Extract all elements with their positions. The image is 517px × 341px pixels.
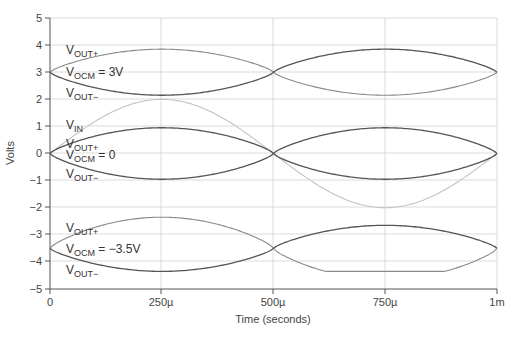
x-axis-title: Time (seconds) bbox=[235, 313, 310, 325]
y-tick: 2 bbox=[36, 93, 42, 105]
y-tick: −3 bbox=[29, 228, 42, 240]
y-tick: 0 bbox=[36, 147, 42, 159]
label-vout-minus-0: VOUT− bbox=[66, 167, 98, 183]
curves bbox=[50, 49, 497, 271]
annotations: VOUT+ VOCM = 3V VOUT− VIN VOUT+ VOCM = 0… bbox=[66, 43, 140, 279]
y-tick: −2 bbox=[29, 201, 42, 213]
y-tick: −1 bbox=[29, 174, 42, 186]
x-tick-labels: 0 250µ 500µ 750µ 1m bbox=[47, 296, 505, 308]
y-tick: 3 bbox=[36, 66, 42, 78]
chart: 5 4 3 2 1 0 −1 −2 −3 −4 −5 0 250µ 500µ 7… bbox=[0, 0, 517, 341]
x-tick: 1m bbox=[489, 296, 504, 308]
curve-vout-vocm-0 bbox=[50, 128, 497, 180]
x-tick: 0 bbox=[47, 296, 53, 308]
label-vout-plus-3v: VOUT+ bbox=[66, 43, 98, 59]
label-vout-minus-m35: VOUT− bbox=[66, 263, 98, 279]
label-vout-minus-3v: VOUT− bbox=[66, 86, 98, 102]
y-axis-title: Volts bbox=[4, 141, 16, 165]
y-tick: 1 bbox=[36, 120, 42, 132]
label-vout-plus-m35: VOUT+ bbox=[66, 221, 98, 237]
label-vocm-3v: VOCM = 3V bbox=[66, 65, 123, 81]
y-tick: 4 bbox=[36, 39, 42, 51]
x-tick: 500µ bbox=[261, 296, 286, 308]
y-tick-labels: 5 4 3 2 1 0 −1 −2 −3 −4 −5 bbox=[29, 12, 42, 295]
y-tick: −5 bbox=[29, 283, 42, 295]
label-vin: VIN bbox=[66, 118, 83, 134]
y-tick: −4 bbox=[29, 255, 42, 267]
x-tick: 750µ bbox=[373, 296, 398, 308]
y-tick: 5 bbox=[36, 12, 42, 24]
label-vocm-m35: VOCM = −3.5V bbox=[66, 242, 140, 258]
x-tick: 250µ bbox=[149, 296, 174, 308]
